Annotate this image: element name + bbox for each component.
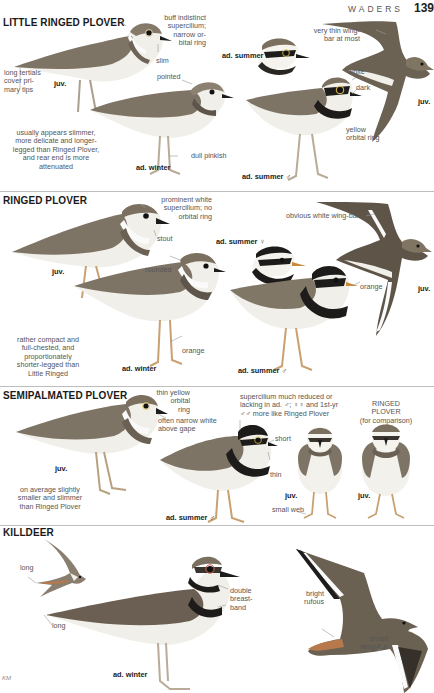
note-killdeer-long-flight: long (20, 564, 34, 572)
note-supercilium-reduced: supercilium much reduced or lacking in a… (240, 393, 338, 418)
note-ringed-plover-comparison: RINGED PLOVER (for comparison) (354, 400, 418, 425)
note-killdeer-long-tail: long (52, 622, 66, 630)
sp-juv-bird (16, 395, 168, 494)
label-sp-ad-summer-male: ad. summer ♂ (166, 513, 215, 522)
note-short: short (275, 435, 291, 443)
note-lrp-overall: usually appears slimmer, more delicate a… (10, 129, 102, 171)
label-rp-juv-flight: juv. (418, 284, 430, 293)
label-lrp-ad-summer-female: ad. summer ♀ (222, 51, 271, 60)
label-sp-juv: juv. (55, 464, 67, 473)
label-sp-juv-front: juv. (285, 491, 297, 500)
label-lrp-ad-winter: ad. winter (136, 163, 171, 172)
note-very-thin-wingbar: very thin wing- bar at most (310, 27, 360, 44)
label-rp-ad-winter: ad. winter (122, 364, 157, 373)
killdeer-flight-large-bird (296, 549, 428, 693)
label-rp-juv-front: juv. (358, 491, 370, 500)
note-small-web: small web (272, 506, 304, 514)
note-rp-legs-orange: orange (182, 347, 204, 355)
note-yellow-orbital-ring: yellow orbital ring (346, 126, 380, 143)
note-sp-overall: on average slightly smaller and slimmer … (14, 486, 86, 511)
note-dark: dark (356, 84, 370, 92)
label-rp-ad-summer-female: ad. summer ♀ (216, 237, 265, 246)
note-bright-rufous: bright rufous (298, 590, 324, 607)
artist-signature: KM (2, 675, 11, 681)
label-lrp-ad-summer-male: ad. summer ♂ (242, 172, 291, 181)
killdeer-illustrations (0, 525, 434, 693)
rp-ad-summer-male-bird (230, 266, 358, 370)
note-stout: stout (157, 235, 173, 243)
note-broad-wingbar: broad wing-bar (356, 635, 388, 652)
sp-juv-front-bird (298, 427, 342, 518)
note-slim: slim (156, 57, 169, 65)
note-rounded: rounded (145, 266, 171, 274)
killdeer-flight-small-bird (36, 539, 86, 597)
note-prominent-white-supercilium: prominent white supercilium; no orbital … (160, 196, 212, 221)
note-dull-pinkish: dull pinkish (191, 152, 227, 160)
note-obvious-white-wingbar: obvious white wing-bar (286, 212, 359, 220)
note-rp-overall: rather compact and full-chested, and pro… (10, 336, 86, 378)
label-lrp-juv-flight: juv. (418, 97, 430, 106)
note-thin-yellow-orbital-ring: thin yellow orbital ring (150, 389, 190, 414)
lrp-ad-summer-male-bird (246, 77, 362, 180)
label-rp-ad-summer-male: ad. summer ♂ (238, 366, 287, 375)
note-white: white (348, 68, 365, 76)
label-killdeer-ad-winter: ad. winter (113, 670, 148, 679)
note-pointed: pointed (157, 73, 181, 81)
note-double-breast-band: double breast- band (230, 587, 252, 612)
note-rp-bill-orange: orange (360, 283, 382, 291)
rp-ad-summer-female-bird (252, 247, 306, 285)
sp-ad-summer-male-bird (160, 425, 278, 522)
note-long-tertials: long tertials cover pri- mary tips (4, 69, 41, 94)
rp-juv-front-comparison-bird (362, 424, 410, 518)
note-thin: thin (270, 471, 282, 479)
label-rp-juv: juv. (52, 267, 64, 276)
note-narrow-white-above-gape: often narrow white above gape (158, 417, 217, 434)
label-lrp-juv: juv. (54, 79, 66, 88)
